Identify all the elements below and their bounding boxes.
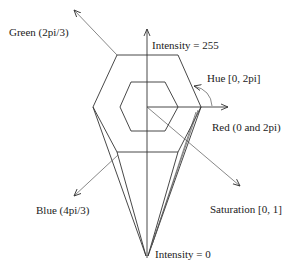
green-axis-arrow [74,10,117,55]
hue-arc-arrow [194,86,212,106]
blue-label: Blue (4pi/3) [36,204,90,217]
hsi-diagram: Green (2pi/3) Intensity = 255 Hue [0, 2p… [0,0,291,266]
hue-label: Hue [0, 2pi] [207,72,260,84]
intensity-bottom-label: Intensity = 0 [155,248,211,260]
green-label: Green (2pi/3) [9,26,69,39]
blue-axis-arrow [74,155,118,196]
saturation-label: Saturation [0, 1] [210,203,282,215]
intensity-top-label: Intensity = 255 [152,39,219,51]
red-label: Red (0 and 2pi) [212,121,281,134]
inner-hexagon [120,82,178,131]
